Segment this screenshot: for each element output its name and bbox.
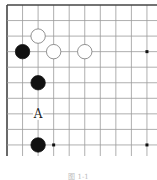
figure-caption: 图 1-1	[0, 171, 157, 180]
black-stone	[31, 138, 45, 152]
star-point	[145, 50, 148, 53]
star-point	[52, 143, 55, 146]
black-stone	[31, 76, 45, 90]
white-stone	[31, 29, 45, 43]
white-stone	[78, 44, 92, 58]
go-board: A	[0, 0, 157, 165]
black-stone	[15, 44, 29, 58]
star-point	[145, 143, 148, 146]
board-label-a: A	[33, 107, 43, 121]
white-stone	[46, 44, 60, 58]
